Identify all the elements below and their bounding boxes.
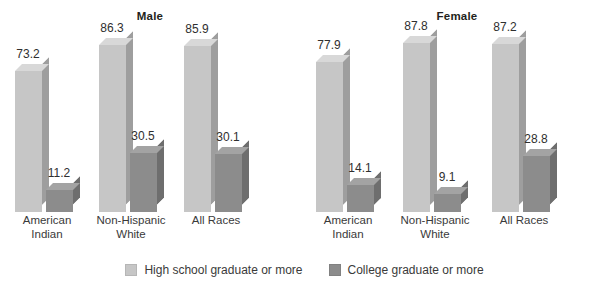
bar-high-school: 87.2 — [492, 44, 519, 212]
bar-side-face — [430, 29, 437, 205]
legend-item: College graduate or more — [329, 263, 484, 277]
bar-front-face — [215, 154, 242, 212]
bar-front-face — [492, 44, 519, 212]
bar-value-label: 28.8 — [524, 132, 547, 146]
bar-side-face — [374, 171, 381, 205]
bar-high-school: 85.9 — [184, 46, 211, 212]
bar-value-label: 30.1 — [216, 130, 239, 144]
legend-swatch-icon — [329, 264, 341, 276]
panel-female: Female77.914.1AmericanIndian87.89.1Non-H… — [305, 0, 609, 255]
category-label: All Races — [192, 214, 241, 228]
bar-top-face — [403, 36, 437, 43]
bar-front-face — [46, 190, 73, 212]
category-label-line1: All Races — [192, 214, 241, 228]
grouped-bar-chart: Male73.211.2AmericanIndian86.330.5Non-Hi… — [0, 0, 609, 283]
bar-side-face — [73, 176, 80, 205]
bar-college: 14.1 — [347, 185, 374, 212]
category-label: Non-HispanicWhite — [400, 214, 469, 241]
bar-front-face — [99, 45, 126, 212]
bar-value-label: 87.2 — [493, 20, 516, 34]
bar-front-face — [130, 153, 157, 212]
bar-college: 30.5 — [130, 153, 157, 212]
bar-front-face — [15, 71, 42, 212]
bar-college: 11.2 — [46, 190, 73, 212]
panel-male: Male73.211.2AmericanIndian86.330.5Non-Hi… — [0, 0, 300, 255]
bar-college: 9.1 — [434, 194, 461, 212]
category-label-line1: American — [23, 214, 72, 228]
bar-front-face — [184, 46, 211, 212]
bar-group: 87.228.8All Races — [492, 12, 557, 212]
bar-value-label: 85.9 — [185, 22, 208, 36]
bar-front-face — [316, 62, 343, 212]
bar-value-label: 77.9 — [317, 38, 340, 52]
bar-value-label: 14.1 — [348, 161, 371, 175]
bar-high-school: 73.2 — [15, 71, 42, 212]
bar-high-school: 87.8 — [403, 43, 430, 212]
category-label-line1: Non-Hispanic — [96, 214, 165, 228]
bar-group: 77.914.1AmericanIndian — [316, 12, 381, 212]
bar-high-school: 86.3 — [99, 45, 126, 212]
bar-value-label: 73.2 — [16, 47, 39, 61]
bar-front-face — [403, 43, 430, 212]
legend-label: College graduate or more — [348, 263, 484, 277]
category-label-line1: American — [324, 214, 373, 228]
legend-label: High school graduate or more — [144, 263, 302, 277]
bar-group: 87.89.1Non-HispanicWhite — [403, 12, 468, 212]
category-label-line2: White — [96, 228, 165, 242]
legend-item: High school graduate or more — [125, 263, 302, 277]
category-label: Non-HispanicWhite — [96, 214, 165, 241]
category-label-line1: All Races — [500, 214, 549, 228]
bar-side-face — [42, 57, 49, 205]
bar-front-face — [523, 156, 550, 212]
legend-swatch-icon — [125, 264, 137, 276]
chart-legend: High school graduate or moreCollege grad… — [0, 263, 609, 277]
category-label: AmericanIndian — [23, 214, 72, 241]
bar-front-face — [347, 185, 374, 212]
category-label-line2: Indian — [324, 228, 373, 242]
bar-group: 73.211.2AmericanIndian — [15, 12, 80, 212]
bar-high-school: 77.9 — [316, 62, 343, 212]
category-label-line2: White — [400, 228, 469, 242]
category-label: All Races — [500, 214, 549, 228]
bar-group: 86.330.5Non-HispanicWhite — [99, 12, 164, 212]
bar-value-label: 11.2 — [48, 166, 70, 180]
bar-value-label: 86.3 — [100, 21, 123, 35]
bar-value-label: 30.5 — [131, 129, 154, 143]
bar-top-face — [316, 55, 350, 62]
bar-college: 30.1 — [215, 154, 242, 212]
category-label-line1: Non-Hispanic — [400, 214, 469, 228]
bar-side-face — [343, 48, 350, 205]
bar-value-label: 9.1 — [439, 170, 456, 184]
bar-front-face — [434, 194, 461, 212]
bar-college: 28.8 — [523, 156, 550, 212]
bar-value-label: 87.8 — [404, 19, 427, 33]
category-label: AmericanIndian — [324, 214, 373, 241]
category-label-line2: Indian — [23, 228, 72, 242]
bar-group: 85.930.1All Races — [184, 12, 249, 212]
